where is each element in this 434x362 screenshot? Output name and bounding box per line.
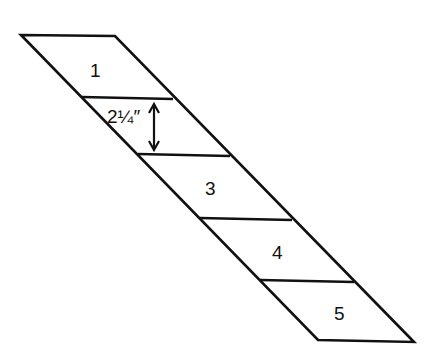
segment-label-3: 3	[205, 178, 216, 199]
dimension-arrow-icon	[149, 104, 159, 150]
divider-1	[82, 97, 173, 99]
segment-label-1: 1	[90, 60, 101, 81]
strip-outline	[21, 35, 414, 342]
divider-2	[138, 154, 230, 156]
segment-label-4: 4	[272, 242, 283, 263]
strip-diagram: 1 2¼″ 3 4 5	[0, 0, 434, 362]
dimension-label: 2¼″	[107, 106, 140, 127]
divider-3	[200, 218, 292, 220]
divider-4	[260, 280, 354, 282]
segment-label-5: 5	[334, 303, 345, 324]
